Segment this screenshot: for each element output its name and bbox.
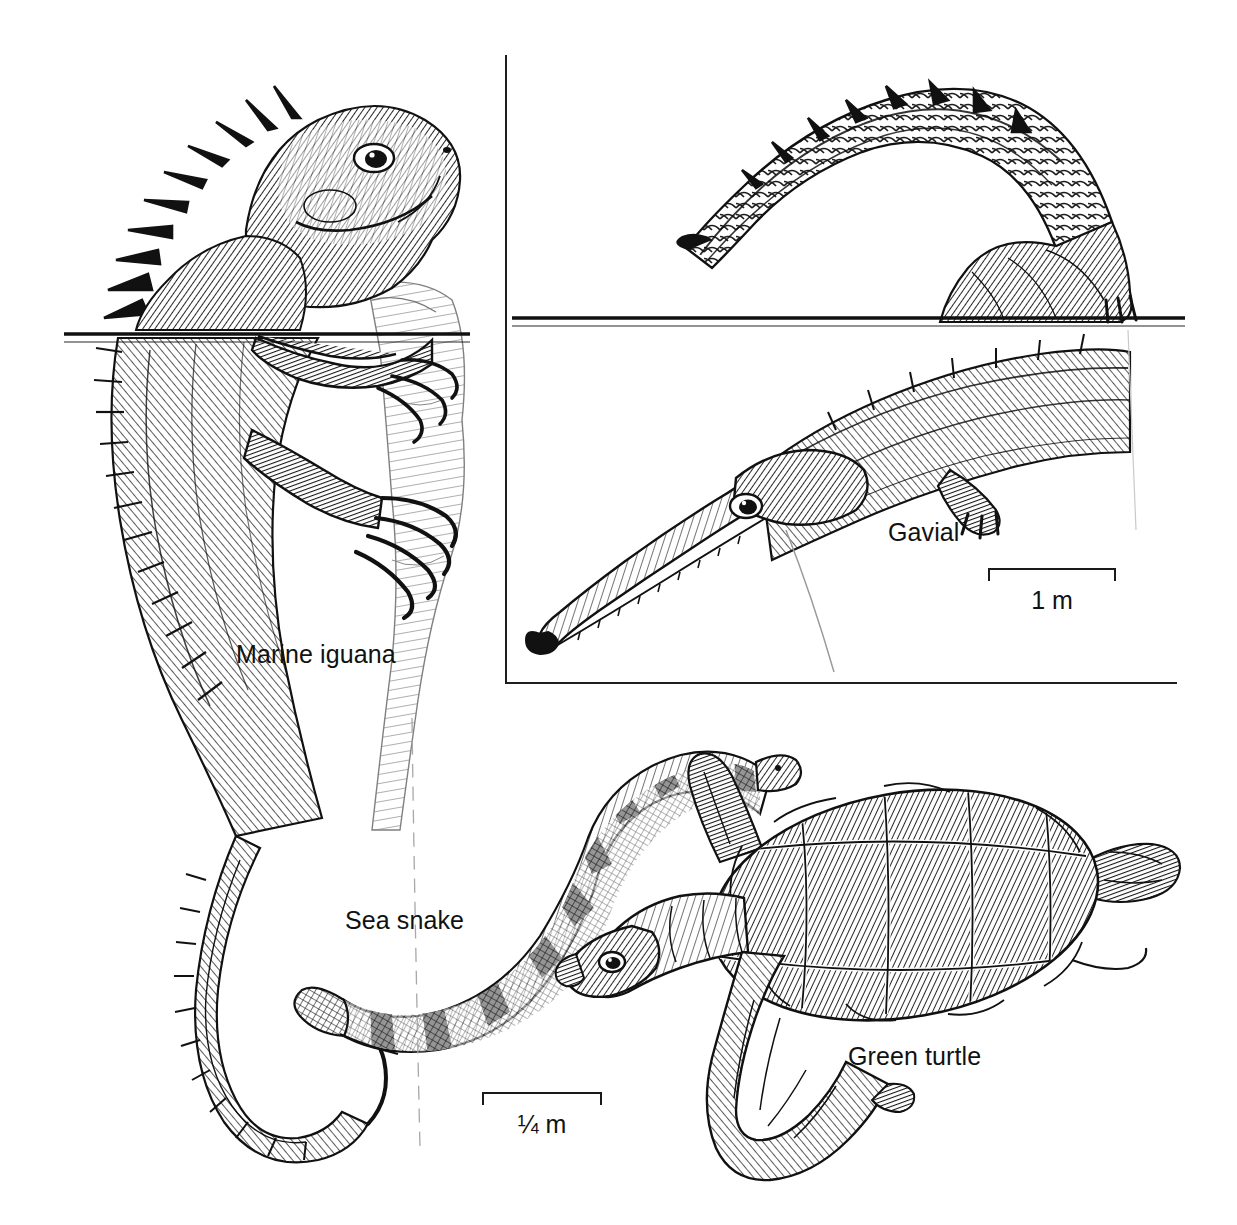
scale-bar-line	[482, 1092, 602, 1094]
scale-bar-caption: 1 m	[988, 586, 1116, 615]
label-gavial: Gavial	[888, 520, 959, 545]
panel-divider-vertical	[505, 55, 507, 684]
panel-divider-horizontal	[505, 682, 1177, 684]
scale-bar-tick-right	[600, 1092, 602, 1105]
scale-bar-caption: ¼ m	[482, 1110, 602, 1139]
label-sea-snake: Sea snake	[345, 908, 464, 933]
scale-bar-tick-right	[1114, 568, 1116, 581]
label-marine-iguana: Marine iguana	[236, 642, 396, 667]
scale-bar-tick-left	[988, 568, 990, 581]
scale-bar-line	[988, 568, 1116, 570]
scale-bar-tick-left	[482, 1092, 484, 1105]
figure-plate: Marine iguana Gavial Sea snake Green tur…	[0, 0, 1237, 1225]
label-green-turtle: Green turtle	[848, 1044, 981, 1069]
